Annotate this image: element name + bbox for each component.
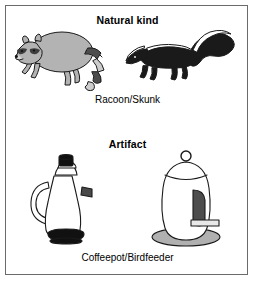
- panel-heading-natural-kind: Natural kind: [6, 14, 249, 26]
- panel-caption-artifact: Coffeepot/Birdfeeder: [6, 252, 249, 263]
- figure-frame: Natural kind: [5, 5, 248, 275]
- birdfeeder-illustration: [144, 150, 232, 254]
- panel-caption-natural-kind: Racoon/Skunk: [6, 94, 249, 105]
- raccoon-illustration: [14, 28, 120, 96]
- panel-heading-artifact: Artifact: [6, 138, 249, 150]
- coffeepot-illustration: [24, 154, 110, 254]
- panel-artifact: Artifact: [6, 132, 249, 276]
- panel-natural-kind: Natural kind: [6, 6, 249, 136]
- skunk-illustration: [124, 28, 236, 90]
